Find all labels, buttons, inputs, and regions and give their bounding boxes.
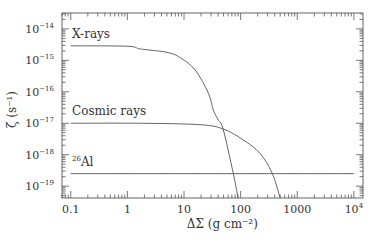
y-tick-label-exponent: −16	[39, 85, 54, 93]
y-tick-label-base: 10	[25, 23, 39, 36]
x-tick-label: 10	[177, 203, 191, 216]
x-axis-label: ΔΣ (g cm⁻²)	[187, 217, 258, 231]
y-tick-label: 10−16	[25, 85, 54, 99]
y-tick-label-exponent: −15	[39, 53, 54, 61]
y-tick-label: 10−14	[25, 22, 54, 36]
x-tick-label-exponent: 4	[359, 202, 364, 210]
y-tick-label: 10−18	[25, 148, 54, 162]
y-tick-label-base: 10	[25, 54, 39, 67]
x-tick-label: 0.1	[62, 203, 80, 216]
x-tick-label: 1	[124, 203, 131, 216]
series-label-26al: 26Al	[72, 155, 94, 169]
y-tick-label-exponent: −18	[39, 148, 54, 156]
series-line-cosmic-rays	[71, 123, 280, 198]
y-tick-label-base: 10	[25, 149, 39, 162]
y-tick-labels: 10−1410−1510−1610−1710−1810−19	[25, 22, 54, 193]
series-label-cosmic-rays: Cosmic rays	[72, 104, 146, 118]
series-labels: X-raysCosmic rays26Al	[72, 27, 146, 169]
y-tick-label-base: 10	[25, 180, 39, 193]
x-tick-label: 1000	[283, 203, 311, 216]
x-tick-labels: 0.11101001000104	[62, 202, 364, 216]
y-axis-label: ζ (s⁻¹)	[5, 91, 19, 128]
y-tick-label-exponent: −14	[39, 22, 54, 30]
series-line-x-rays	[71, 46, 238, 198]
y-tick-label: 10−17	[25, 116, 54, 130]
y-tick-label-base: 10	[25, 86, 39, 99]
x-tick-label: 100	[230, 203, 251, 216]
y-tick-label: 10−15	[25, 53, 54, 67]
series-label-text: Al	[80, 155, 94, 169]
series-label-x-rays: X-rays	[72, 27, 110, 41]
series-curves	[71, 46, 354, 198]
y-tick-label-base: 10	[25, 117, 39, 130]
y-tick-label: 10−19	[25, 179, 54, 193]
x-tick-label: 104	[345, 202, 364, 216]
y-tick-label-exponent: −17	[39, 116, 54, 124]
chart: 0.11101001000104 10−1410−1510−1610−1710−…	[0, 0, 375, 248]
y-tick-label-exponent: −19	[39, 179, 54, 187]
